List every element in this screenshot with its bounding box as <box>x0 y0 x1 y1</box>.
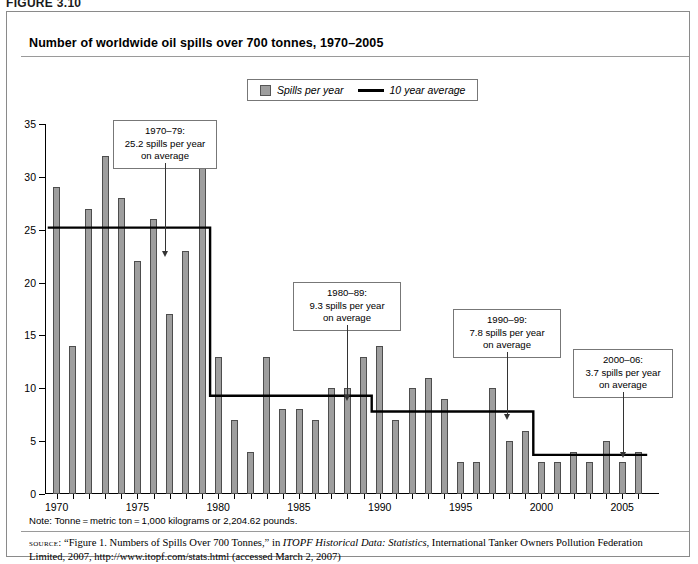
x-tick <box>412 494 413 499</box>
annotation-line-1: 1980–89: <box>300 287 394 300</box>
annotation-line-2: 25.2 spills per year <box>120 138 210 151</box>
y-tick-label: 5 <box>30 436 36 447</box>
y-tick <box>39 335 45 336</box>
legend-label-line: 10 year average <box>390 84 466 96</box>
bar <box>457 462 464 494</box>
annotation-arrowhead-icon <box>344 395 350 401</box>
annotation-a2000s: 2000–06:3.7 spills per yearon average <box>573 349 673 398</box>
y-tick <box>39 388 45 389</box>
annotation-line-3: on average <box>300 312 394 325</box>
x-tick-label: 1990 <box>368 502 391 513</box>
x-tick <box>606 494 607 499</box>
annotation-line-3: on average <box>120 150 210 163</box>
bar <box>409 388 416 494</box>
x-tick <box>541 494 542 499</box>
figure-root: FIGURE 3.10 Number of worldwide oil spil… <box>0 0 698 564</box>
bar <box>231 420 238 494</box>
x-tick <box>202 494 203 499</box>
y-tick-label: 30 <box>24 172 36 183</box>
title-divider <box>21 56 689 57</box>
y-axis <box>45 124 46 494</box>
bar <box>134 261 141 494</box>
annotation-a1990s: 1990–99:7.8 spills per yearon average <box>453 309 561 358</box>
bar <box>506 441 513 494</box>
x-tick <box>137 494 138 499</box>
x-tick-label: 1975 <box>126 502 149 513</box>
annotation-line-1: 1990–99: <box>460 314 554 327</box>
y-tick-label: 10 <box>24 383 36 394</box>
bar <box>312 420 319 494</box>
plot-area: 05101520253035 1970197519801985199019952… <box>45 124 659 494</box>
legend-item-bars: Spills per year <box>260 84 344 96</box>
y-tick-label: 25 <box>24 224 36 235</box>
y-tick <box>39 230 45 231</box>
x-tick <box>251 494 252 499</box>
bar <box>522 431 529 494</box>
x-tick-label: 1970 <box>45 502 68 513</box>
x-tick <box>396 494 397 499</box>
x-tick <box>590 494 591 499</box>
y-tick-label: 20 <box>24 277 36 288</box>
x-tick <box>299 494 300 499</box>
bar <box>344 388 351 494</box>
x-tick <box>622 494 623 499</box>
annotation-arrowhead-icon <box>620 452 626 458</box>
x-tick <box>234 494 235 499</box>
annotation-leader-line <box>165 163 166 251</box>
y-tick <box>39 283 45 284</box>
annotation-line-2: 9.3 spills per year <box>300 300 394 313</box>
annotation-line-2: 7.8 spills per year <box>460 327 554 340</box>
y-tick-label: 0 <box>30 489 36 500</box>
legend-swatch-icon <box>260 85 271 96</box>
chart-note: Note: Tonne = metric ton = 1,000 kilogra… <box>29 515 297 526</box>
x-tick <box>509 494 510 499</box>
x-tick <box>105 494 106 499</box>
x-tick <box>558 494 559 499</box>
x-tick <box>283 494 284 499</box>
x-tick <box>525 494 526 499</box>
bar <box>603 441 610 494</box>
x-tick <box>638 494 639 499</box>
x-tick <box>154 494 155 499</box>
x-tick <box>477 494 478 499</box>
bar <box>85 209 92 494</box>
legend-item-line: 10 year average <box>358 84 466 96</box>
figure-label: FIGURE 3.10 <box>6 0 81 10</box>
bar <box>150 219 157 494</box>
annotation-line-1: 1970–79: <box>120 125 210 138</box>
bar <box>166 314 173 494</box>
x-tick <box>364 494 365 499</box>
x-tick <box>428 494 429 499</box>
source-italic-title: ITOPF Historical Data: Statistics <box>283 537 427 548</box>
annotation-leader-line <box>507 352 508 414</box>
bar <box>376 346 383 494</box>
x-tick <box>186 494 187 499</box>
annotation-a1980s: 1980–89:9.3 spills per yearon average <box>293 282 401 331</box>
chart-title: Number of worldwide oil spills over 700 … <box>29 36 383 50</box>
bar <box>489 388 496 494</box>
source-divider <box>21 531 689 532</box>
bar <box>619 462 626 494</box>
y-tick <box>39 177 45 178</box>
bar <box>554 462 561 494</box>
x-tick <box>493 494 494 499</box>
y-tick <box>39 124 45 125</box>
bar <box>182 251 189 494</box>
bar <box>102 156 109 494</box>
x-tick-label: 1995 <box>449 502 472 513</box>
annotation-leader-line <box>623 392 624 452</box>
x-tick <box>331 494 332 499</box>
x-tick <box>267 494 268 499</box>
figure-panel: Number of worldwide oil spills over 700 … <box>6 11 690 557</box>
x-tick-label: 2000 <box>530 502 553 513</box>
legend-label-bars: Spills per year <box>277 84 344 96</box>
annotation-line-3: on average <box>460 339 554 352</box>
chart-legend: Spills per year 10 year average <box>247 79 478 101</box>
x-tick <box>89 494 90 499</box>
x-tick <box>461 494 462 499</box>
bar <box>570 452 577 494</box>
x-tick-label: 1980 <box>207 502 230 513</box>
source-citation: source: “Figure 1. Numbers of Spills Ove… <box>29 536 681 563</box>
bar <box>586 462 593 494</box>
y-tick <box>39 441 45 442</box>
